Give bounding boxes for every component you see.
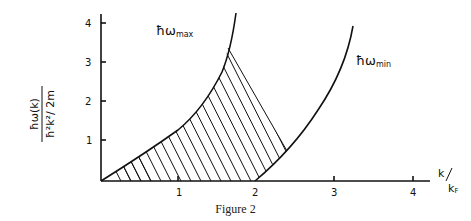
figure-caption: Figure 2 [0, 202, 471, 217]
x-axis-label-kf: kF [448, 182, 458, 195]
x-tick-3: 3 [331, 187, 337, 198]
omega-max-label: ħωmax [156, 23, 194, 39]
hatched-region [60, 40, 308, 195]
x-axis-label-k: k [438, 167, 445, 180]
x-tick-1: 1 [176, 187, 182, 198]
y-tick-4: 4 [85, 18, 91, 29]
y-tick-3: 3 [85, 57, 91, 68]
axes [101, 14, 430, 181]
omega-min-label: ħωmin [356, 53, 391, 69]
dispersion-chart: 4 3 2 1 1 2 3 4 ħωmax ħωmin k kF ħω(k) ħ… [0, 0, 471, 221]
y-axis-label: ħω(k) ħ²k²/ 2m [28, 86, 57, 142]
svg-text:ħ²k²/ 2m: ħ²k²/ 2m [44, 90, 57, 138]
x-tick-4: 4 [410, 187, 416, 198]
x-tick-2: 2 [252, 187, 258, 198]
y-tick-1: 1 [86, 135, 92, 146]
y-tick-2: 2 [85, 96, 91, 107]
svg-text:ħω(k): ħω(k) [28, 98, 41, 130]
